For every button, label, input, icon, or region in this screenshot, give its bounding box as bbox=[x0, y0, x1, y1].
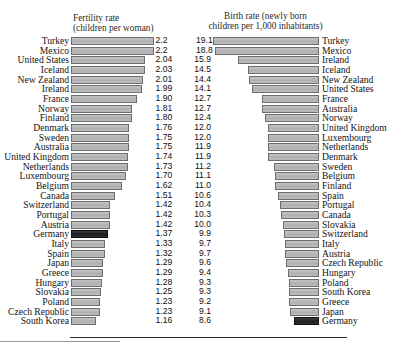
birth-bar-track bbox=[213, 191, 319, 201]
fertility-bar-track bbox=[71, 316, 154, 326]
birth-bar bbox=[281, 211, 319, 219]
chart-row: South Korea1.168.6Germany bbox=[0, 316, 417, 326]
fertility-bar-track bbox=[71, 191, 154, 201]
fertility-bar bbox=[71, 85, 142, 93]
birth-bar bbox=[275, 172, 319, 180]
fertility-bar bbox=[71, 47, 154, 55]
fertility-bar-track bbox=[71, 162, 154, 172]
fertility-country-label: South Korea bbox=[0, 316, 71, 326]
fertility-bar bbox=[71, 172, 126, 180]
birth-bar bbox=[252, 85, 320, 93]
fertility-bar bbox=[71, 259, 103, 267]
fertility-bar-track bbox=[71, 152, 154, 162]
chart-rows: Turkey2.219.1TurkeyMexico2.218.8MexicoUn… bbox=[0, 36, 417, 326]
birth-bar bbox=[268, 134, 319, 142]
fertility-bar-track bbox=[71, 36, 154, 46]
fertility-bar bbox=[71, 269, 103, 277]
fertility-bar bbox=[71, 134, 129, 142]
birth-bar bbox=[286, 259, 319, 267]
birth-bar-track bbox=[213, 133, 319, 143]
fertility-bar bbox=[71, 124, 129, 132]
birth-bar-track bbox=[213, 65, 319, 75]
fertility-bar bbox=[71, 143, 129, 151]
fertility-bar bbox=[71, 56, 145, 64]
birth-bar-track bbox=[213, 84, 319, 94]
fertility-bar-track bbox=[71, 287, 154, 297]
birth-bar bbox=[268, 143, 319, 151]
fertility-bar bbox=[71, 317, 96, 325]
fertility-bar-track bbox=[71, 94, 154, 104]
fertility-bar-track bbox=[71, 133, 154, 143]
birth-bar-track bbox=[213, 210, 319, 220]
plot-baseline bbox=[70, 337, 347, 338]
fertility-bar-track bbox=[71, 171, 154, 181]
birth-bar bbox=[285, 250, 319, 258]
birth-bar-track bbox=[213, 239, 319, 249]
birth-bar bbox=[248, 66, 319, 74]
birth-bar-track bbox=[213, 36, 319, 46]
fertility-bar-track bbox=[71, 249, 154, 259]
birth-country-label: Germany bbox=[319, 316, 417, 326]
plot-baseline-secondary bbox=[0, 341, 120, 342]
birth-bar bbox=[262, 95, 319, 103]
fertility-bar-track bbox=[71, 123, 154, 133]
birth-bar-track bbox=[213, 171, 319, 181]
birth-bar-track bbox=[213, 75, 319, 85]
fertility-bar bbox=[71, 153, 128, 161]
birth-value-label: 8.6 bbox=[181, 316, 213, 326]
fertility-bar bbox=[71, 192, 115, 200]
birth-bar bbox=[268, 153, 319, 161]
birth-bar bbox=[289, 298, 319, 306]
birth-bar bbox=[274, 163, 319, 171]
fertility-bar bbox=[71, 114, 132, 122]
fertility-bar-track bbox=[71, 181, 154, 191]
birth-bar-track bbox=[213, 94, 319, 104]
birth-bar bbox=[249, 76, 319, 84]
birth-bar-track bbox=[213, 142, 319, 152]
fertility-bar bbox=[71, 163, 128, 171]
fertility-bar-track bbox=[71, 104, 154, 114]
fertility-bar bbox=[71, 240, 105, 248]
fertility-bar-track bbox=[71, 113, 154, 123]
birth-bar bbox=[280, 201, 319, 209]
fertility-bar bbox=[71, 105, 132, 113]
fertility-rate-header: Fertility rate (children per woman) bbox=[73, 13, 154, 34]
birth-bar-track bbox=[213, 316, 319, 326]
fertility-bar-track bbox=[71, 210, 154, 220]
birth-bar-track bbox=[213, 181, 319, 191]
fertility-bar-track bbox=[71, 220, 154, 230]
fertility-bar-track bbox=[71, 258, 154, 268]
birth-bar-track bbox=[213, 200, 319, 210]
fertility-bar bbox=[71, 182, 122, 190]
fertility-bar-track bbox=[71, 229, 154, 239]
birth-bar-track bbox=[213, 297, 319, 307]
birth-bar-track bbox=[213, 220, 319, 230]
birth-bar-track bbox=[213, 268, 319, 278]
fertility-bar bbox=[71, 221, 110, 229]
birth-bar bbox=[213, 37, 319, 45]
fertility-birth-rate-chart: Fertility rate (children per woman) Birt… bbox=[0, 0, 417, 356]
birth-bar-track bbox=[213, 113, 319, 123]
birth-bar bbox=[283, 221, 319, 229]
fertility-bar-track bbox=[71, 239, 154, 249]
fertility-bar-track bbox=[71, 142, 154, 152]
fertility-bar bbox=[71, 201, 110, 209]
birth-bar-track bbox=[213, 55, 319, 65]
birth-bar bbox=[288, 269, 319, 277]
birth-rate-header: Birth rate (newly born children per 1,00… bbox=[186, 11, 345, 32]
fertility-bar bbox=[71, 298, 100, 306]
birth-bar-track bbox=[213, 258, 319, 268]
birth-bar bbox=[285, 240, 319, 248]
birth-bar bbox=[284, 230, 319, 238]
fertility-bar bbox=[71, 250, 105, 258]
birth-bar bbox=[275, 182, 319, 190]
fertility-bar-track bbox=[71, 55, 154, 65]
birth-bar-track bbox=[213, 152, 319, 162]
fertility-value-label: 1.16 bbox=[154, 316, 181, 326]
fertility-bar-track bbox=[71, 278, 154, 288]
birth-bar bbox=[290, 308, 319, 316]
birth-bar-track bbox=[213, 278, 319, 288]
birth-bar-track bbox=[213, 123, 319, 133]
fertility-bar bbox=[71, 66, 145, 74]
birth-bar-track bbox=[213, 307, 319, 317]
